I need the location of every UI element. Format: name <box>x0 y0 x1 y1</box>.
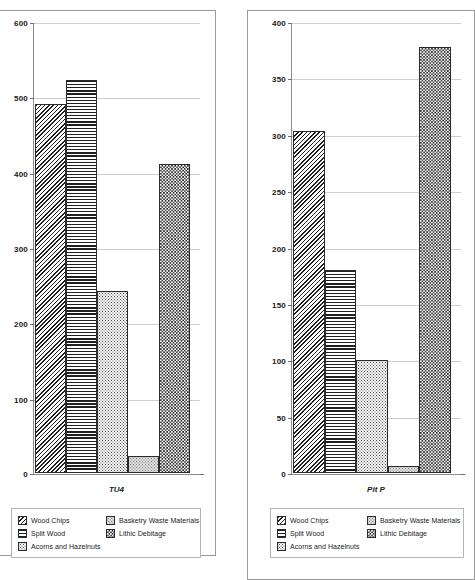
ytick-label-200: 200 <box>14 320 28 329</box>
tick-mark-400 <box>30 174 34 175</box>
legend-swatch-lithic-debitage-icon <box>106 529 115 538</box>
gridline-0: 0 <box>292 474 461 475</box>
ytick-label-250: 250 <box>272 188 286 197</box>
gridline-0: 0 <box>34 474 200 475</box>
legend-item-acorns-and-hazelnuts[interactable]: Acorns and Hazelnuts <box>18 540 106 553</box>
x-axis-title-tu4: TU4 <box>33 485 200 494</box>
legend-label-lithic-debitage: Lithic Debitage <box>119 530 166 537</box>
legend-swatch-wood-chips-icon <box>18 516 27 525</box>
legend-swatch-lithic-debitage-icon <box>367 529 376 538</box>
ytick-label-300: 300 <box>14 245 28 254</box>
legend-label-split-wood: Split Wood <box>290 530 324 537</box>
bar-lithic-debitage[interactable] <box>419 47 451 473</box>
legend-label-basketry-waste-materials: Basketry Waste Materials <box>380 517 460 524</box>
legend-item-wood-chips[interactable]: Wood Chips <box>277 514 367 527</box>
ytick-label-500: 500 <box>14 94 28 103</box>
legend-label-lithic-debitage: Lithic Debitage <box>380 530 427 537</box>
legend-label-wood-chips: Wood Chips <box>290 517 329 524</box>
ytick-label-150: 150 <box>272 300 286 309</box>
plot-area-pit-p: 400 350 300 250 200 150 <box>291 23 461 475</box>
legend-swatch-split-wood-icon <box>277 529 286 538</box>
legend-item-lithic-debitage[interactable]: Lithic Debitage <box>106 527 194 540</box>
ytick-label-400: 400 <box>272 19 286 28</box>
tick-mark-300 <box>288 136 292 137</box>
bar-split-wood[interactable] <box>66 80 97 473</box>
legend-item-split-wood[interactable]: Split Wood <box>277 527 367 540</box>
plot-area-tu4: 600 500 400 300 200 100 <box>33 23 200 475</box>
legend-label-split-wood: Split Wood <box>31 530 65 537</box>
chart-panel-tu4: 600 500 400 300 200 100 <box>0 10 216 556</box>
legend-item-acorns-and-hazelnuts[interactable]: Acorns and Hazelnuts <box>277 540 367 553</box>
legend-swatch-split-wood-icon <box>18 529 27 538</box>
ytick-label-200: 200 <box>272 244 286 253</box>
bar-wood-chips[interactable] <box>35 104 66 473</box>
ytick-label-0: 0 <box>23 470 28 479</box>
legend-label-basketry-waste-materials: Basketry Waste Materials <box>119 517 199 524</box>
legend-swatch-acorns-and-hazelnuts-icon <box>18 542 27 551</box>
legend-swatch-basketry-waste-materials-icon <box>106 516 115 525</box>
legend-swatch-wood-chips-icon <box>277 516 286 525</box>
legend-swatch-basketry-waste-materials-icon <box>367 516 376 525</box>
legend-label-wood-chips: Wood Chips <box>31 517 70 524</box>
tick-mark-100 <box>30 400 34 401</box>
legend-item-split-wood[interactable]: Split Wood <box>18 527 106 540</box>
chart-pit-p: 400 350 300 250 200 150 <box>248 11 474 579</box>
ytick-label-100: 100 <box>272 357 286 366</box>
tick-mark-300 <box>30 249 34 250</box>
legend-item-basketry-waste-materials[interactable]: Basketry Waste Materials <box>367 514 457 527</box>
legend-item-wood-chips[interactable]: Wood Chips <box>18 514 106 527</box>
tick-mark-0-right <box>461 474 465 475</box>
chart-tu4: 600 500 400 300 200 100 <box>0 11 215 555</box>
tick-mark-350 <box>288 79 292 80</box>
legend-pit-p: Wood Chips Basketry Waste Materials Spli… <box>270 508 464 558</box>
ytick-label-350: 350 <box>272 75 286 84</box>
ytick-label-0: 0 <box>281 470 286 479</box>
bar-acorns-and-hazelnuts[interactable] <box>356 360 388 473</box>
legend-label-acorns-and-hazelnuts: Acorns and Hazelnuts <box>31 543 100 550</box>
ytick-label-300: 300 <box>272 131 286 140</box>
legend-item-basketry-waste-materials[interactable]: Basketry Waste Materials <box>106 514 194 527</box>
bar-wood-chips[interactable] <box>293 131 325 473</box>
tick-mark-0-right <box>200 474 204 475</box>
bar-basketry-waste-materials[interactable] <box>128 456 159 473</box>
tick-mark-0 <box>288 474 292 475</box>
tick-mark-500 <box>30 98 34 99</box>
bar-acorns-and-hazelnuts[interactable] <box>97 291 128 473</box>
tick-mark-150 <box>288 305 292 306</box>
legend-item-lithic-debitage[interactable]: Lithic Debitage <box>367 527 457 540</box>
tick-mark-600 <box>30 23 34 24</box>
tick-mark-100 <box>288 361 292 362</box>
ytick-label-100: 100 <box>14 395 28 404</box>
ytick-label-50: 50 <box>277 413 286 422</box>
tick-mark-0 <box>30 474 34 475</box>
ytick-label-600: 600 <box>14 19 28 28</box>
bar-lithic-debitage[interactable] <box>159 164 190 473</box>
tick-mark-400 <box>288 23 292 24</box>
bar-group-pit-p <box>293 23 451 473</box>
tick-mark-50 <box>288 418 292 419</box>
bar-group-tu4 <box>35 23 190 473</box>
bar-basketry-waste-materials[interactable] <box>388 466 420 473</box>
legend-swatch-acorns-and-hazelnuts-icon <box>277 542 286 551</box>
tick-mark-200 <box>30 324 34 325</box>
x-axis-title-pit-p: Pit P <box>291 485 461 494</box>
legend-tu4: Wood Chips Basketry Waste Materials Spli… <box>11 508 201 558</box>
tick-mark-200 <box>288 249 292 250</box>
legend-label-acorns-and-hazelnuts: Acorns and Hazelnuts <box>290 543 359 550</box>
chart-panel-pit-p: 400 350 300 250 200 150 <box>247 10 475 580</box>
bar-split-wood[interactable] <box>325 270 357 473</box>
ytick-label-400: 400 <box>14 169 28 178</box>
tick-mark-250 <box>288 192 292 193</box>
